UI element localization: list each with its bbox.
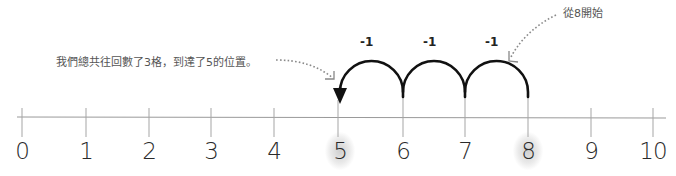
tick-label-8-highlighted: 8 (513, 132, 543, 170)
tick-label-10: 10 (633, 136, 673, 166)
tick-label-3: 3 (196, 136, 226, 166)
axis-line (17, 117, 666, 118)
start-annotation: 從8開始 (563, 4, 603, 20)
step-label-1: -1 (360, 35, 373, 49)
tick-label-5-highlighted: 5 (325, 132, 355, 170)
tick-label-1: 1 (71, 136, 101, 166)
jump-arcs (340, 61, 528, 97)
jump-arc-8-to-7 (465, 61, 528, 97)
tick-label-2: 2 (134, 136, 164, 166)
tick-label-9: 9 (576, 136, 606, 166)
number-line-diagram: -1 -1 -1 從8開始 我們總共往回數了3格，到達了5的位置。 0 1 2 … (0, 0, 676, 176)
jump-arc-6-to-5 (340, 61, 403, 92)
tick-label-4: 4 (259, 136, 289, 166)
arrowhead-icon (333, 88, 347, 104)
step-label-3: -1 (485, 35, 498, 49)
tick-label-0: 0 (7, 136, 37, 166)
tick-label-7: 7 (450, 136, 480, 166)
result-dotted-arrow (276, 60, 333, 78)
start-dotted-arrow (510, 15, 556, 59)
step-label-2: -1 (423, 35, 436, 49)
tick-label-6: 6 (388, 136, 418, 166)
result-annotation: 我們總共往回數了3格，到達了5的位置。 (56, 53, 257, 69)
jump-arc-7-to-6 (403, 61, 465, 97)
result-arrowhead-icon (325, 71, 334, 79)
